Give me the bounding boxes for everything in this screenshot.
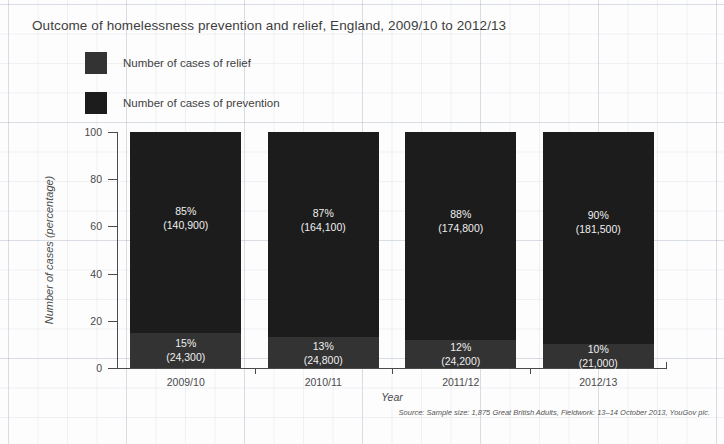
bar-segment-percent-label: 10% [588, 342, 609, 356]
chart-title: Outcome of homelessness prevention and r… [32, 18, 506, 33]
bar-segment-relief[interactable]: 12%(24,200) [405, 340, 516, 368]
y-axis-tick: 40 [108, 274, 117, 275]
legend-label-relief: Number of cases of relief [123, 57, 251, 69]
chart-legend: Number of cases of relief Number of case… [85, 50, 280, 130]
bar-group[interactable]: 88%(174,800)12%(24,200) [405, 132, 516, 368]
bar-segment-count-label: (140,900) [163, 218, 208, 232]
bar-segment-count-label: (181,500) [576, 222, 621, 236]
x-axis-tick [530, 368, 531, 374]
y-axis-tick: 100 [108, 132, 117, 133]
y-axis-tick-label: 20 [90, 315, 102, 327]
bar-segment-count-label: (24,800) [304, 353, 343, 367]
chart-canvas: Outcome of homelessness prevention and r… [0, 0, 724, 444]
bar-segment-count-label: (24,300) [166, 350, 205, 364]
legend-item-relief[interactable]: Number of cases of relief [85, 50, 280, 76]
y-axis-tick-label: 80 [90, 173, 102, 185]
legend-swatch-prevention [85, 92, 107, 114]
y-axis-tick-label: 60 [90, 220, 102, 232]
y-axis-title: Number of cases (percentage) [43, 176, 55, 325]
y-axis-tick-label: 100 [84, 126, 102, 138]
bar-segment-prevention[interactable]: 87%(164,100) [268, 132, 379, 337]
bar-segment-percent-label: 87% [313, 206, 334, 220]
bar-segment-relief[interactable]: 10%(21,000) [543, 344, 654, 368]
bar-segment-percent-label: 12% [450, 340, 471, 354]
legend-swatch-relief [85, 52, 107, 74]
y-axis-tick: 20 [108, 321, 117, 322]
plot-area: 02040608010085%(140,900)15%(24,300)87%(1… [117, 132, 667, 368]
bar-segment-prevention[interactable]: 85%(140,900) [130, 132, 241, 333]
bar-segment-prevention[interactable]: 90%(181,500) [543, 132, 654, 344]
legend-label-prevention: Number of cases of prevention [123, 97, 280, 109]
bar-segment-relief[interactable]: 15%(24,300) [130, 333, 241, 368]
x-axis-title: Year [381, 391, 403, 403]
y-axis-tick-label: 0 [96, 362, 102, 374]
bar-segment-count-label: (21,000) [579, 356, 618, 370]
bar-group[interactable]: 90%(181,500)10%(21,000) [543, 132, 654, 368]
bar-group[interactable]: 85%(140,900)15%(24,300) [130, 132, 241, 368]
x-axis-category-label: 2009/10 [167, 376, 205, 388]
x-axis-category-label: 2011/12 [442, 376, 479, 388]
bar-segment-prevention[interactable]: 88%(174,800) [405, 132, 516, 340]
legend-item-prevention[interactable]: Number of cases of prevention [85, 90, 280, 116]
y-axis-tick: 0 [108, 368, 117, 369]
bar-segment-percent-label: 13% [313, 339, 334, 353]
bar-segment-percent-label: 90% [588, 208, 609, 222]
bar-segment-relief[interactable]: 13%(24,800) [268, 337, 379, 368]
bar-segment-percent-label: 88% [450, 207, 471, 221]
y-axis-tick: 80 [108, 179, 117, 180]
y-axis-tick: 60 [108, 226, 117, 227]
x-axis-tick [392, 368, 393, 374]
source-note: Source: Sample size: 1,875 Great British… [399, 408, 710, 417]
bar-segment-count-label: (174,800) [438, 221, 483, 235]
bar-segment-count-label: (164,100) [301, 220, 346, 234]
bar-segment-percent-label: 85% [175, 204, 196, 218]
x-axis-tick [255, 368, 256, 374]
bar-segment-count-label: (24,200) [441, 354, 480, 368]
x-axis-category-label: 2012/13 [579, 376, 617, 388]
bar-segment-percent-label: 15% [175, 336, 196, 350]
bar-group[interactable]: 87%(164,100)13%(24,800) [268, 132, 379, 368]
y-axis-tick-label: 40 [90, 268, 102, 280]
x-axis-category-label: 2010/11 [305, 376, 342, 388]
